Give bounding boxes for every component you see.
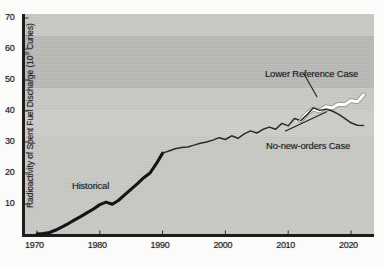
- series-no-new-orders-case: [301, 108, 364, 126]
- y-tick-label-70: 70: [5, 12, 14, 22]
- x-tick-label-2010: 2010: [276, 240, 295, 250]
- x-tick-label-1980: 1980: [88, 240, 107, 250]
- y-tick-label-40: 40: [5, 105, 14, 115]
- tick-marks-group: [25, 18, 352, 235]
- y-axis-title: Radioactivity of Spent Fuel Discharge (1…: [23, 28, 35, 208]
- x-tick-label-2000: 2000: [213, 240, 232, 250]
- data-series-group: [37, 95, 364, 234]
- x-tick-label-2020: 2020: [339, 240, 358, 250]
- x-tick-label-1970: 1970: [25, 240, 44, 250]
- annotation-historical: Historical: [72, 180, 109, 191]
- annotation-no-new-orders-case: No-new-orders Case: [266, 140, 350, 151]
- annotation-lower-reference-case: Lower Reference Case: [265, 68, 358, 79]
- y-axis-title-exponent: 9: [23, 52, 30, 56]
- x-tick-label-1990: 1990: [151, 240, 170, 250]
- series-historical: [37, 153, 163, 234]
- y-tick-label-60: 60: [5, 43, 14, 53]
- y-axis-title-tail: Curies): [25, 23, 35, 52]
- chart-plot-area: [0, 0, 384, 267]
- y-tick-label-50: 50: [5, 74, 14, 84]
- y-tick-label-20: 20: [5, 167, 14, 177]
- figure-container: 10203040506070 197019801990200020102020 …: [0, 0, 384, 267]
- y-tick-label-30: 30: [5, 136, 14, 146]
- y-tick-label-10: 10: [5, 198, 14, 208]
- y-axis-title-main: Radioactivity of Spent Fuel Discharge (1…: [25, 56, 35, 208]
